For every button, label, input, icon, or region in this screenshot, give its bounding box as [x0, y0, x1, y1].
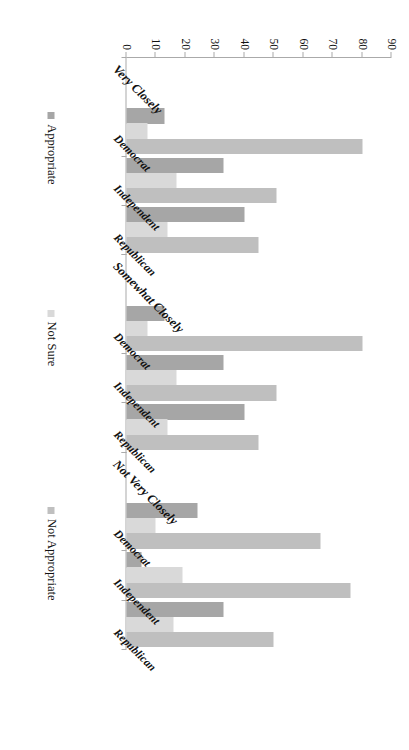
bar — [126, 336, 362, 352]
value-tick — [390, 52, 391, 57]
value-tick-label: 70 — [326, 39, 338, 51]
bar — [126, 385, 276, 401]
legend-label: Not Sure — [45, 322, 58, 367]
legend-label: Appropriate — [45, 124, 58, 184]
value-tick-label: 50 — [267, 39, 279, 51]
value-tick-label: 60 — [297, 39, 309, 51]
value-axis-line — [126, 57, 391, 58]
bar — [126, 321, 147, 337]
value-tick — [272, 52, 273, 57]
plot-area: 0102030405060708090 Very CloselyDemocrat… — [126, 57, 391, 649]
chart-legend: AppropriateNot SureNot Appropriate — [37, 57, 57, 649]
bar — [126, 237, 259, 253]
value-tick-label: 30 — [209, 39, 221, 51]
value-tick-label: 20 — [179, 39, 191, 51]
bar — [126, 173, 176, 189]
bar — [126, 533, 320, 549]
value-tick — [184, 52, 185, 57]
value-tick — [213, 52, 214, 57]
group-tick — [121, 57, 126, 58]
value-tick — [243, 52, 244, 57]
bar — [126, 435, 259, 451]
value-tick — [361, 52, 362, 57]
value-tick-label: 80 — [356, 39, 368, 51]
bar — [126, 370, 176, 386]
legend-item[interactable]: Not Sure — [45, 310, 58, 367]
legend-swatch-icon — [47, 310, 54, 317]
bar-chart: 0102030405060708090 Very CloselyDemocrat… — [0, 0, 409, 750]
bar — [126, 632, 273, 648]
legend-item[interactable]: Appropriate — [45, 112, 58, 184]
value-tick — [331, 52, 332, 57]
bar — [126, 188, 276, 204]
legend-swatch-icon — [47, 507, 54, 514]
legend-label: Not Appropriate — [45, 519, 58, 601]
value-tick — [302, 52, 303, 57]
value-tick-label: 10 — [150, 39, 162, 51]
bar — [126, 139, 362, 155]
chart-figure-rotated: 0102030405060708090 Very CloselyDemocrat… — [0, 0, 409, 750]
bar — [126, 583, 350, 599]
value-tick-label: 0 — [120, 44, 132, 50]
bar — [126, 518, 155, 534]
legend-swatch-icon — [47, 112, 54, 119]
value-tick-label: 40 — [238, 39, 250, 51]
value-tick — [154, 52, 155, 57]
bar — [126, 123, 147, 139]
bar — [126, 567, 182, 583]
legend-item[interactable]: Not Appropriate — [45, 507, 58, 601]
value-tick-label: 90 — [385, 39, 397, 51]
